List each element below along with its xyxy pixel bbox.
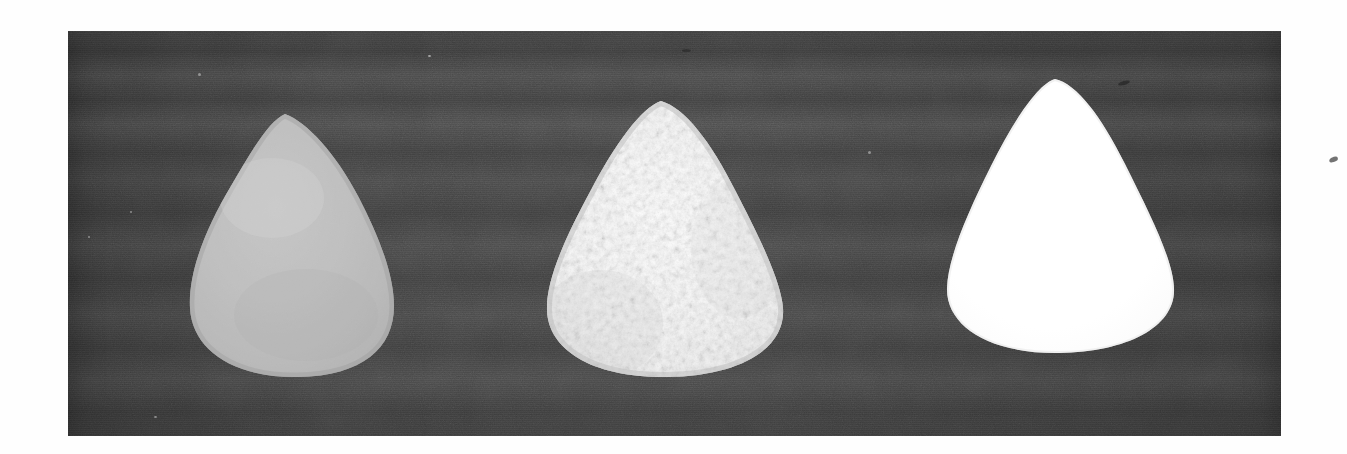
photographic-plate [68,31,1281,436]
figure-root [0,0,1347,454]
dust-speck [130,211,132,213]
specimen-right [943,76,1179,356]
specimen-middle [543,98,789,380]
dust-speck [88,236,90,238]
dust-speck [428,55,431,57]
dust-speck [198,73,201,76]
dust-speck [868,151,871,154]
dust-speck [682,49,691,52]
margin-speck-icon [1328,156,1338,164]
specimen-left [186,110,398,380]
dust-speck [154,416,157,418]
